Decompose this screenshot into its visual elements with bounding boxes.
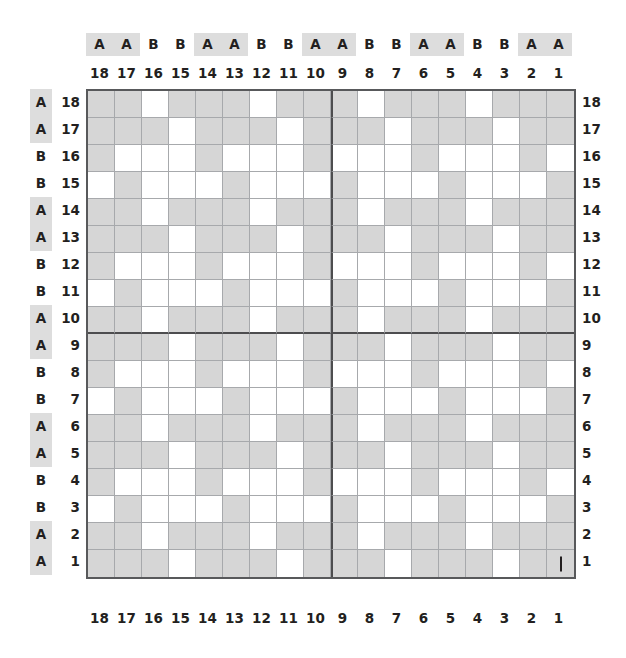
cell-r1-c8 [358, 550, 385, 577]
cell-r5-c15 [169, 442, 196, 469]
cell-r4-c17 [115, 469, 142, 496]
cell-r16-c17 [115, 145, 142, 172]
cell-r16-c12 [250, 145, 277, 172]
column-group-label-17: A [113, 33, 140, 56]
cell-r12-c3 [493, 253, 520, 280]
cell-r1-c14 [196, 550, 223, 577]
row-group-label-5: A [30, 440, 52, 467]
cell-r4-c11 [277, 469, 304, 496]
cell-r7-c14 [196, 388, 223, 415]
row-number-right-7: 7 [582, 386, 608, 413]
cell-r14-c10 [304, 199, 331, 226]
column-number-top-10: 10 [302, 64, 329, 82]
row-group-label-14: A [30, 197, 52, 224]
cell-r17-c12 [250, 118, 277, 145]
cell-r10-c11 [277, 307, 304, 334]
cell-r11-c2 [520, 280, 547, 307]
cell-r1-c13 [223, 550, 250, 577]
cell-r14-c12 [250, 199, 277, 226]
column-number-top-12: 12 [248, 64, 275, 82]
cell-r2-c6 [412, 523, 439, 550]
column-number-top-14: 14 [194, 64, 221, 82]
cell-r14-c13 [223, 199, 250, 226]
cell-r7-c7 [385, 388, 412, 415]
cell-r10-c12 [250, 307, 277, 334]
cell-r15-c10 [304, 172, 331, 199]
cell-r2-c14 [196, 523, 223, 550]
column-number-top-4: 4 [464, 64, 491, 82]
cell-r2-c8 [358, 523, 385, 550]
cell-r12-c1 [547, 253, 574, 280]
column-number-top-8: 8 [356, 64, 383, 82]
cell-r5-c14 [196, 442, 223, 469]
cell-r5-c18 [88, 442, 115, 469]
cell-r10-c2 [520, 307, 547, 334]
cell-r15-c18 [88, 172, 115, 199]
column-number-bottom-18: 18 [86, 609, 113, 627]
cell-r1-c15 [169, 550, 196, 577]
cell-r9-c17 [115, 334, 142, 361]
cell-r14-c17 [115, 199, 142, 226]
row-group-label-4: B [30, 467, 52, 494]
cell-r12-c17 [115, 253, 142, 280]
row-number-left-3: 3 [54, 494, 80, 521]
cell-r6-c18 [88, 415, 115, 442]
cell-r3-c3 [493, 496, 520, 523]
cell-r16-c16 [142, 145, 169, 172]
cell-r16-c18 [88, 145, 115, 172]
row-number-left-4: 4 [54, 467, 80, 494]
cell-r4-c4 [466, 469, 493, 496]
cell-r9-c5 [439, 334, 466, 361]
cell-r15-c11 [277, 172, 304, 199]
cell-r1-c4 [466, 550, 493, 577]
cell-r3-c6 [412, 496, 439, 523]
cell-r17-c4 [466, 118, 493, 145]
cell-r5-c12 [250, 442, 277, 469]
cell-r12-c16 [142, 253, 169, 280]
cell-r2-c12 [250, 523, 277, 550]
cell-r17-c1 [547, 118, 574, 145]
cell-r11-c18 [88, 280, 115, 307]
cell-r17-c17 [115, 118, 142, 145]
cell-r1-c10 [304, 550, 331, 577]
cell-r16-c2 [520, 145, 547, 172]
row-number-left-7: 7 [54, 386, 80, 413]
cell-r10-c10 [304, 307, 331, 334]
cell-r2-c9 [331, 523, 358, 550]
cell-r14-c14 [196, 199, 223, 226]
cell-r7-c5 [439, 388, 466, 415]
cell-r1-c9 [331, 550, 358, 577]
cell-r10-c8 [358, 307, 385, 334]
row-group-label-9: A [30, 332, 52, 359]
cell-r14-c3 [493, 199, 520, 226]
row-number-right-4: 4 [582, 467, 608, 494]
cell-r7-c16 [142, 388, 169, 415]
cell-r17-c7 [385, 118, 412, 145]
cell-r17-c8 [358, 118, 385, 145]
row-group-label-8: B [30, 359, 52, 386]
cell-r8-c7 [385, 361, 412, 388]
cell-r6-c2 [520, 415, 547, 442]
cell-r13-c3 [493, 226, 520, 253]
cell-r15-c3 [493, 172, 520, 199]
row-group-label-7: B [30, 386, 52, 413]
cell-r6-c17 [115, 415, 142, 442]
cell-r7-c18 [88, 388, 115, 415]
cell-r5-c2 [520, 442, 547, 469]
cell-r12-c4 [466, 253, 493, 280]
cell-r18-c4 [466, 91, 493, 118]
cell-r8-c5 [439, 361, 466, 388]
cell-r12-c11 [277, 253, 304, 280]
cell-r6-c6 [412, 415, 439, 442]
cell-r7-c2 [520, 388, 547, 415]
cell-r13-c15 [169, 226, 196, 253]
column-number-top-3: 3 [491, 64, 518, 82]
cell-r3-c5 [439, 496, 466, 523]
cell-r14-c16 [142, 199, 169, 226]
cell-r14-c8 [358, 199, 385, 226]
cell-r18-c14 [196, 91, 223, 118]
cell-r18-c8 [358, 91, 385, 118]
cell-r2-c5 [439, 523, 466, 550]
cell-r5-c7 [385, 442, 412, 469]
row-number-left-8: 8 [54, 359, 80, 386]
